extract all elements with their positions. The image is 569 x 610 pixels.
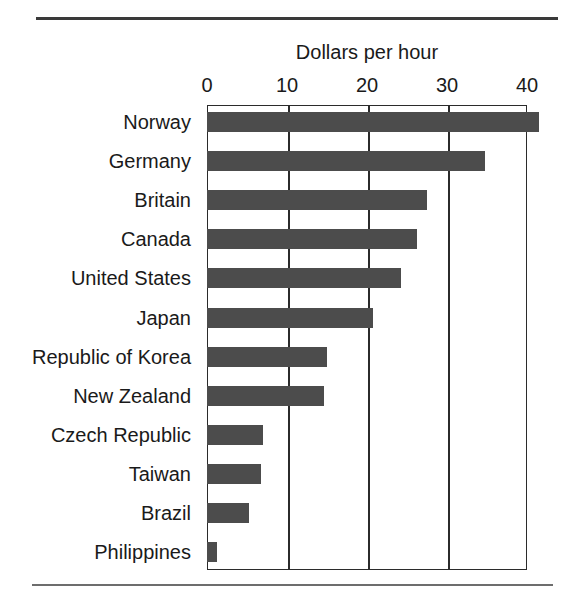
category-labels: NorwayGermanyBritainCanadaUnited StatesJ… (0, 105, 200, 570)
category-label-united-states: United States (0, 267, 200, 289)
bar-row (207, 340, 567, 379)
top-divider-rule (36, 17, 558, 20)
bar-row (207, 301, 567, 340)
bottom-divider-rule (32, 584, 553, 586)
bar-row (207, 222, 567, 261)
category-label-canada: Canada (0, 228, 200, 250)
category-label-britain: Britain (0, 189, 200, 211)
bar-row (207, 144, 567, 183)
category-label-new-zealand: New Zealand (0, 385, 200, 407)
bar-row (207, 183, 567, 222)
x-tick-label-40: 40 (497, 73, 557, 97)
bar-philippines (207, 542, 217, 562)
category-label-brazil: Brazil (0, 502, 200, 524)
x-tick-label-10: 10 (257, 73, 317, 97)
bar-new-zealand (207, 386, 324, 406)
bar-brazil (207, 503, 249, 523)
chart-title: Dollars per hour (207, 40, 527, 64)
bar-republic-of-korea (207, 347, 327, 367)
x-tick-label-30: 30 (417, 73, 477, 97)
category-label-japan: Japan (0, 307, 200, 329)
bar-row (207, 379, 567, 418)
bar-row (207, 418, 567, 457)
category-label-taiwan: Taiwan (0, 463, 200, 485)
bar-norway (207, 112, 539, 132)
bar-row (207, 496, 567, 535)
bar-czech-republic (207, 425, 263, 445)
bar-germany (207, 151, 485, 171)
bar-canada (207, 229, 417, 249)
bar-britain (207, 190, 427, 210)
x-tick-label-20: 20 (337, 73, 397, 97)
bar-united-states (207, 268, 401, 288)
bar-row (207, 535, 567, 574)
bar-taiwan (207, 464, 261, 484)
x-tick-label-0: 0 (177, 73, 237, 97)
x-axis-tick-labels: 010203040 (0, 73, 569, 97)
category-label-republic-of-korea: Republic of Korea (0, 346, 200, 368)
bar-row (207, 261, 567, 300)
category-label-philippines: Philippines (0, 541, 200, 563)
category-label-germany: Germany (0, 150, 200, 172)
bars-layer (207, 105, 567, 570)
bar-row (207, 105, 567, 144)
category-label-czech-republic: Czech Republic (0, 424, 200, 446)
category-label-norway: Norway (0, 111, 200, 133)
bar-japan (207, 308, 373, 328)
bar-row (207, 457, 567, 496)
